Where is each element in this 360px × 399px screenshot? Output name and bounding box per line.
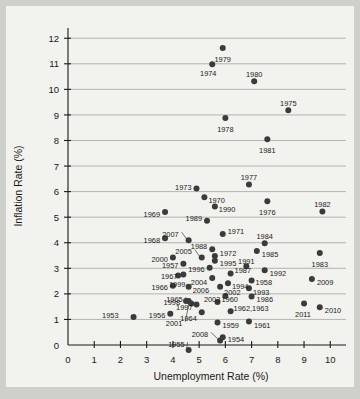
data-point-label: 2010 [325,306,341,315]
data-point [201,194,207,200]
data-point-label: 1971 [228,227,244,236]
data-point-label: 1993 [253,288,269,297]
data-point-label: 1953 [102,311,118,320]
y-tick-label: 12 [48,33,59,44]
data-point [246,318,252,324]
data-point-label: 1966 [151,283,167,292]
data-point-label: 1985 [262,250,278,259]
data-point-label: 1983 [312,260,328,269]
data-point-label: 1954 [228,335,244,344]
data-point [225,280,231,286]
data-point-label: 1973 [175,183,191,192]
x-tick-label: 2 [118,354,123,365]
data-point-label: 1982 [314,200,330,209]
data-point [317,304,323,310]
data-point [207,265,213,271]
data-point-label: 1988 [191,242,207,251]
data-point-label: 1970 [208,196,224,205]
data-point [214,320,220,326]
data-point [301,301,307,307]
data-point-label: 2003 [204,295,220,304]
data-point-label: 1980 [246,70,262,79]
data-point-label: 1998 [164,298,180,307]
y-tick-label: 6 [54,186,59,197]
data-point-label: 2009 [317,278,333,287]
data-point-label: 1955 [168,340,184,349]
data-point [264,198,270,204]
data-point [220,231,226,237]
y-tick-label: 7 [54,161,59,172]
data-point [162,209,168,215]
data-point-label: 1995 [220,259,236,268]
y-tick-label: 8 [54,135,59,146]
data-point [309,276,315,282]
scatter-plot: 0123456789101112 012345678910 1953195419… [6,6,354,387]
data-point [228,270,234,276]
data-point-label: 2000 [151,255,167,264]
y-tick-label: 2 [54,288,59,299]
data-point-label: 1981 [259,146,275,155]
data-point [209,275,215,281]
x-tick-label: 3 [144,354,149,365]
data-point [194,186,200,192]
data-point [217,337,223,343]
data-point-label: 1961 [254,321,270,330]
data-point-label: 1991 [238,257,254,266]
data-point-label: 1959 [222,321,238,330]
data-point-label: 2008 [192,330,208,339]
data-point-label: 1972 [220,249,236,258]
data-point [254,248,260,254]
y-tick-label: 3 [54,263,59,274]
data-point-label: 1978 [217,125,233,134]
data-point [217,284,223,290]
data-point-label: 1958 [256,278,272,287]
data-point-label: 1968 [144,236,160,245]
data-point [204,218,210,224]
data-point [186,347,192,353]
data-point [262,240,268,246]
x-tick-label: 5 [196,354,201,365]
data-point-label: 2002 [224,288,240,297]
data-point-label: 2011 [295,310,311,319]
data-point [220,45,226,51]
data-point [199,255,205,261]
data-point-label: 2004 [191,278,207,287]
data-point [194,302,200,308]
data-point [131,314,137,320]
data-point-label: 2005 [175,247,191,256]
x-axis-title: Unemployment Rate (%) [154,370,269,382]
data-point [180,271,186,277]
data-point [212,258,218,264]
data-point [222,115,228,121]
data-point-label: 1979 [215,55,231,64]
data-point-label: 1956 [149,311,165,320]
data-point [262,267,268,273]
data-point [199,309,205,315]
data-point-label: 1969 [144,210,160,219]
data-point-label: 1990 [219,205,235,214]
data-point [180,261,186,267]
y-tick-label: 4 [54,237,59,248]
x-tick-label: 4 [170,354,175,365]
data-point-label: 1999 [169,280,185,289]
x-tick-label: 7 [249,354,254,365]
data-point-label: 1975 [280,99,296,108]
data-point-label: 1992 [270,269,286,278]
data-point-label: 1989 [186,214,202,223]
data-point-label: 1964 [180,314,196,323]
data-point-label: 1977 [241,173,257,182]
data-point-label: 2001 [166,319,182,328]
x-tick-label: 10 [325,354,336,365]
data-point-label: 1987 [235,266,251,275]
data-point-label: 1996 [188,265,204,274]
y-tick-label: 1 [54,314,59,325]
x-tick-label: 1 [92,354,97,365]
data-point-label: 1976 [259,208,275,217]
data-point [264,136,270,142]
data-point [167,311,173,317]
chart-figure: 0123456789101112 012345678910 1953195419… [6,6,354,387]
data-point-label: 1974 [200,69,216,78]
data-point-label: 2006 [193,286,209,295]
y-tick-label: 11 [49,58,59,69]
data-point-label: 2007 [162,230,178,239]
